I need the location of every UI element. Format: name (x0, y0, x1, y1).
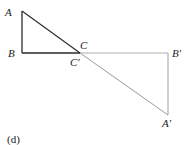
label-b: B (8, 47, 15, 59)
label-c: C (80, 39, 88, 51)
label-a: A (4, 6, 12, 18)
segment-a-c (22, 11, 80, 53)
label-c-prime: C′ (70, 56, 80, 68)
label-b-prime: B′ (172, 47, 182, 59)
figure-caption: (d) (7, 133, 20, 145)
segment-c-prime-a-prime (80, 53, 168, 115)
label-a-prime: A′ (161, 117, 172, 129)
similar-triangles-diagram: A B C C′ B′ A′ (d) (0, 0, 193, 145)
